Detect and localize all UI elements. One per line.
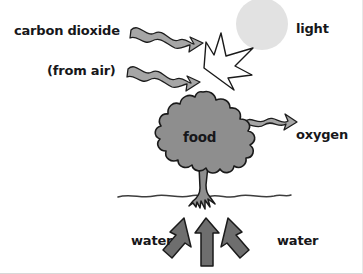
wavy-arrow-from-air-icon [127, 67, 200, 91]
label-carbon-dioxide: carbon dioxide [14, 24, 120, 37]
label-food: food [183, 131, 216, 145]
water-arrow-right-icon [221, 218, 249, 258]
water-arrow-center-icon [195, 218, 219, 266]
wavy-arrow-carbon-dioxide-icon [130, 28, 203, 52]
label-from-air: (from air) [47, 64, 116, 77]
label-light: light [296, 22, 329, 35]
photosynthesis-diagram: carbon dioxide (from air) light food oxy… [0, 0, 363, 274]
label-water-left: water [131, 234, 172, 247]
label-water-right: water [277, 234, 318, 247]
sun-icon [236, 0, 288, 50]
label-oxygen: oxygen [296, 128, 348, 141]
